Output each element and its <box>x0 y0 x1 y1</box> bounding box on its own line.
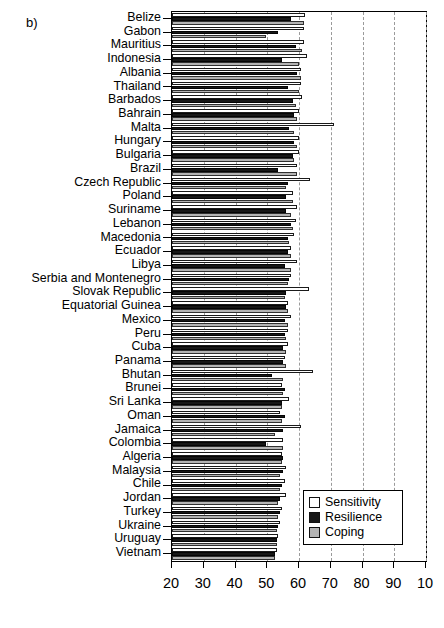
bar-resilience <box>172 374 272 378</box>
value-tick <box>298 561 299 568</box>
chart-legend: Sensitivity Resilience Coping <box>303 490 403 545</box>
category-label: Mexico <box>0 313 166 327</box>
bar-sensitivity <box>172 466 286 470</box>
bar-sensitivity <box>172 452 282 456</box>
bar-resilience <box>172 141 294 145</box>
bar-group <box>172 135 426 149</box>
category-label: Suriname <box>0 203 166 217</box>
category-label: Oman <box>0 409 166 423</box>
bar-resilience <box>172 346 283 350</box>
category-label: Ecuador <box>0 244 166 258</box>
bar-sensitivity <box>172 479 285 483</box>
bar-sensitivity <box>172 219 296 223</box>
category-tick <box>163 155 171 156</box>
category-label: Ukraine <box>0 519 166 533</box>
category-tick <box>163 183 171 184</box>
bar-coping <box>172 556 275 560</box>
bar-group <box>172 273 426 287</box>
bar-coping <box>172 501 278 505</box>
category-label: Turkey <box>0 505 166 519</box>
bar-group <box>172 39 426 53</box>
bar-coping <box>172 296 285 300</box>
bar-sensitivity <box>172 164 297 168</box>
legend-swatch-sensitivity <box>309 497 320 508</box>
category-tick <box>163 361 171 362</box>
bar-coping <box>172 200 293 204</box>
category-tick <box>163 224 171 225</box>
category-tick <box>163 471 171 472</box>
category-tick <box>163 128 171 129</box>
bar-group <box>172 232 426 246</box>
category-label: Malta <box>0 121 166 135</box>
bar-sensitivity <box>172 136 299 140</box>
bar-sensitivity <box>172 534 278 538</box>
category-tick <box>163 18 171 19</box>
bar-sensitivity <box>172 27 304 31</box>
bar-resilience <box>172 442 266 446</box>
bar-coping <box>172 158 294 162</box>
bar-coping <box>172 405 282 409</box>
bar-resilience <box>172 538 277 542</box>
category-tick <box>163 32 171 33</box>
bar-group <box>172 259 426 273</box>
bar-resilience <box>172 45 296 49</box>
bar-sensitivity <box>172 329 288 333</box>
bar-sensitivity <box>172 548 277 552</box>
bar-group <box>172 204 426 218</box>
category-label: Colombia <box>0 436 166 450</box>
category-tick <box>163 388 171 389</box>
bar-group <box>172 67 426 81</box>
bar-resilience <box>172 250 288 254</box>
bar-sensitivity <box>172 301 288 305</box>
category-tick <box>163 416 171 417</box>
plot-area <box>171 11 427 562</box>
bar-group <box>172 94 426 108</box>
category-tick <box>163 430 171 431</box>
bar-group <box>172 424 426 438</box>
bar-resilience <box>172 278 289 282</box>
bar-group <box>172 53 426 67</box>
bar-resilience <box>172 484 282 488</box>
bar-group <box>172 190 426 204</box>
bar-coping <box>172 323 288 327</box>
category-tick <box>163 100 171 101</box>
bar-group <box>172 437 426 451</box>
bar-sensitivity <box>172 40 304 44</box>
category-tick <box>163 169 171 170</box>
bar-coping <box>172 309 288 313</box>
bar-sensitivity <box>172 233 294 237</box>
bar-coping <box>172 172 297 176</box>
bar-coping <box>172 90 299 94</box>
bar-coping <box>172 35 266 39</box>
legend-label-resilience: Resilience <box>325 511 382 523</box>
bar-group <box>172 245 426 259</box>
category-tick <box>163 485 171 486</box>
bar-sensitivity <box>172 54 307 58</box>
category-tick <box>163 553 171 554</box>
category-tick <box>163 210 171 211</box>
bar-group <box>172 122 426 136</box>
value-tick <box>266 561 267 568</box>
bar-coping <box>172 186 286 190</box>
bar-sensitivity <box>172 178 310 182</box>
category-label: Albania <box>0 66 166 80</box>
category-tick <box>163 73 171 74</box>
bar-resilience <box>172 333 285 337</box>
bar-group <box>172 81 426 95</box>
bar-coping <box>172 227 293 231</box>
bar-group <box>172 149 426 163</box>
category-label: Slovak Republic <box>0 285 166 299</box>
bar-coping <box>172 254 291 258</box>
bar-resilience <box>172 305 286 309</box>
gridline <box>426 12 427 561</box>
bar-resilience <box>172 17 291 21</box>
bar-sensitivity <box>172 521 280 525</box>
bar-coping <box>172 337 286 341</box>
bar-resilience <box>172 58 282 62</box>
bar-sensitivity <box>172 397 289 401</box>
bar-group <box>172 12 426 26</box>
bar-resilience <box>172 72 297 76</box>
category-tick <box>163 292 171 293</box>
bar-group <box>172 355 426 369</box>
bar-sensitivity <box>172 82 301 86</box>
